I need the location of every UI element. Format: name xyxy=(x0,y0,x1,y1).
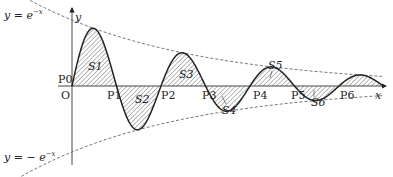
region-s4: S4 xyxy=(222,104,237,117)
y-axis-label: y xyxy=(74,11,82,24)
damped-sine-diagram: y x O y = e−x y = − e−x P0 P1 P2 P3 P4 P… xyxy=(0,0,393,177)
x-axis-label: x xyxy=(375,89,382,102)
region-s5: S5 xyxy=(268,59,283,72)
region-s6: S6 xyxy=(311,96,326,109)
origin-label: O xyxy=(61,89,70,102)
point-p3: P3 xyxy=(202,89,216,102)
point-p0: P0 xyxy=(58,73,72,86)
region-s3: S3 xyxy=(179,68,194,81)
region-s1: S1 xyxy=(88,60,103,73)
region-s2: S2 xyxy=(135,93,150,106)
point-p6: P6 xyxy=(340,89,354,102)
upper-envelope-label: y = e−x xyxy=(3,8,43,22)
point-p1: P1 xyxy=(107,89,121,102)
lower-envelope-label: y = − e−x xyxy=(3,150,56,164)
point-p5: P5 xyxy=(291,89,305,102)
point-p4: P4 xyxy=(253,89,267,102)
point-p2: P2 xyxy=(161,89,175,102)
